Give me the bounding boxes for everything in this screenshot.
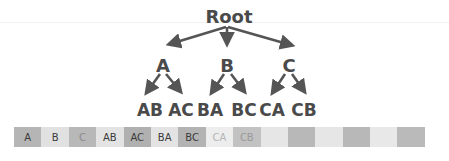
node-bc: BC bbox=[231, 100, 256, 120]
array-cell-empty bbox=[315, 127, 342, 147]
arrow-b-to-ba bbox=[212, 74, 224, 92]
node-ba: BA bbox=[197, 100, 224, 120]
node-cb: CB bbox=[291, 100, 316, 120]
array-cell-c: C bbox=[69, 127, 96, 147]
array-cell-empty bbox=[343, 127, 370, 147]
node-ca: CA bbox=[259, 100, 285, 120]
node-ab: AB bbox=[137, 100, 163, 120]
arrow-c-to-ca bbox=[273, 74, 285, 92]
array-cell-empty bbox=[370, 127, 397, 147]
arrow-b-to-bc bbox=[231, 74, 244, 91]
array-cell-ba: BA bbox=[151, 127, 178, 147]
array-cell-b: B bbox=[41, 127, 68, 147]
array-cell-empty bbox=[288, 127, 315, 147]
diagram-canvas: Root ABC ABACBABCCACB ABCABACBABCCACB bbox=[0, 0, 449, 161]
level1-nodes: ABC bbox=[156, 55, 296, 76]
array-cell-cb: CB bbox=[233, 127, 260, 147]
array-cell-empty bbox=[397, 127, 424, 147]
arrow-a-to-ac bbox=[166, 74, 180, 91]
array-cell-ac: AC bbox=[124, 127, 151, 147]
arrow-a-to-ab bbox=[147, 74, 160, 92]
node-c: C bbox=[282, 55, 295, 76]
tree-labels: Root ABC ABACBABCCACB bbox=[137, 6, 317, 120]
arrow-root-to-c bbox=[228, 27, 291, 45]
array-cell-ab: AB bbox=[96, 127, 123, 147]
arrow-c-to-cb bbox=[292, 74, 304, 91]
level2-nodes: ABACBABCCACB bbox=[137, 100, 317, 120]
array-cell-a: A bbox=[14, 127, 41, 147]
node-a: A bbox=[156, 55, 170, 76]
array-bar: ABCABACBABCCACB bbox=[14, 127, 425, 147]
array-cell-bc: BC bbox=[178, 127, 205, 147]
arrow-root-to-a bbox=[170, 27, 226, 44]
root-node: Root bbox=[205, 6, 253, 27]
node-b: B bbox=[220, 55, 234, 76]
array-cell-empty bbox=[261, 127, 288, 147]
array-cell-ca: CA bbox=[206, 127, 233, 147]
node-ac: AC bbox=[168, 100, 194, 120]
